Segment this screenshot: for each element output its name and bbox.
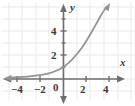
x-axis-label: x	[120, 57, 126, 68]
y-tick-label-4: 4	[51, 26, 57, 37]
y-axis-label: y	[70, 2, 75, 13]
graph-figure: −4 −2 0 2 4 2 4 x y	[0, 0, 135, 106]
x-axis-right-arrow	[117, 76, 125, 83]
x-tick-label-neg2: −2	[34, 84, 46, 95]
y-axis-up-arrow	[60, 4, 67, 12]
exponential-curve	[4, 3, 111, 81]
x-tick-label-4: 4	[103, 84, 109, 95]
x-tick-label-neg4: −4	[11, 84, 23, 95]
y-axis-down-arrow	[60, 96, 67, 104]
x-tick-label-2: 2	[80, 84, 86, 95]
y-tick-label-2: 2	[51, 50, 57, 61]
origin-label: 0	[53, 82, 59, 93]
